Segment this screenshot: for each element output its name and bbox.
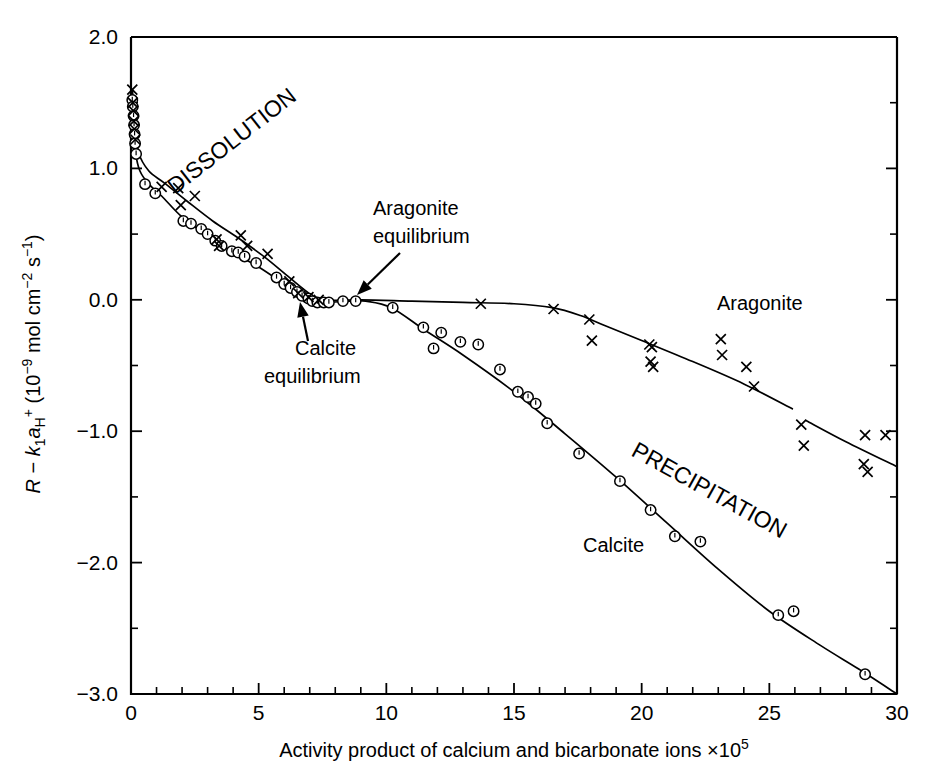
x-tick-label: 30 <box>885 701 908 724</box>
calcite-series-label: Calcite <box>583 534 644 556</box>
aragonite-equilibrium-label-line1: Aragonite <box>373 197 459 219</box>
x-tick-label: 25 <box>758 701 781 724</box>
y-tick-label: 0.0 <box>89 288 118 311</box>
x-tick-label: 15 <box>502 701 525 724</box>
y-tick-label: −2.0 <box>77 551 118 574</box>
x-tick-label: 10 <box>375 701 398 724</box>
x-tick-label: 0 <box>125 701 137 724</box>
x-tick-label: 20 <box>630 701 653 724</box>
x-tick-label: 5 <box>253 701 265 724</box>
aragonite-series-label: Aragonite <box>717 292 803 314</box>
calcite-equilibrium-label-line1: Calcite <box>295 337 356 359</box>
aragonite-equilibrium-label-line2: equilibrium <box>373 225 470 247</box>
y-tick-label: 2.0 <box>89 25 118 48</box>
y-tick-label: 1.0 <box>89 156 118 179</box>
figure-container: 0510152025302.01.00.0−1.0−2.0−3.0 DISSOL… <box>0 0 928 781</box>
scientific-scatter-chart: 0510152025302.01.00.0−1.0−2.0−3.0 DISSOL… <box>0 0 928 781</box>
x-axis-title: Activity product of calcium and bicarbon… <box>279 736 749 761</box>
calcite-equilibrium-label-line2: equilibrium <box>264 365 361 387</box>
y-tick-label: −3.0 <box>77 682 118 705</box>
y-tick-label: −1.0 <box>77 419 118 442</box>
